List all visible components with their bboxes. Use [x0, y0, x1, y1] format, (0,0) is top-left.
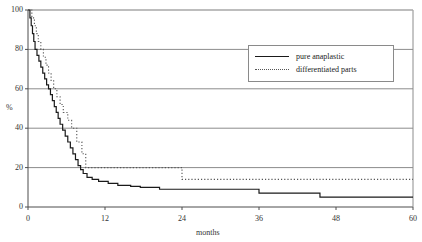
survival-chart: 02040608010001224364860 % months pure an…	[0, 0, 422, 242]
series-line-2	[28, 10, 413, 179]
x-tick-label: 36	[239, 214, 279, 223]
series-line-1	[28, 10, 413, 197]
legend-item-differentiated-parts: differentiated parts	[255, 63, 387, 76]
x-tick-label: 48	[316, 214, 356, 223]
legend-label: pure anaplastic	[296, 52, 344, 61]
legend-item-pure-anaplastic: pure anaplastic	[255, 50, 387, 63]
x-tick-label: 60	[393, 214, 422, 223]
y-tick-label: 40	[0, 123, 23, 132]
y-tick-label: 80	[0, 44, 23, 53]
y-tick-label: 0	[0, 202, 23, 211]
chart-legend: pure anaplastic differentiated parts	[248, 45, 394, 82]
x-tick-label: 24	[162, 214, 202, 223]
x-tick-label: 12	[85, 214, 125, 223]
x-tick-label: 0	[8, 214, 48, 223]
y-tick-label: 20	[0, 163, 23, 172]
legend-label: differentiated parts	[296, 65, 357, 74]
y-tick-label: 100	[0, 5, 23, 14]
plot-canvas	[0, 0, 422, 242]
y-tick-label: 60	[0, 84, 23, 93]
legend-swatch-dotted-line-icon	[255, 66, 289, 74]
y-axis-title: %	[6, 103, 13, 112]
legend-swatch-solid-line-icon	[255, 53, 289, 61]
x-axis-title: months	[196, 228, 220, 237]
